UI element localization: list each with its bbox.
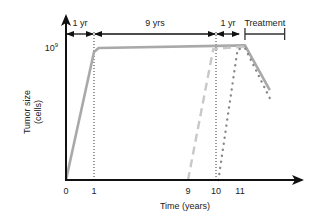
x-tick-label: 11 [235, 186, 244, 196]
period-label-1: 9 yrs [145, 18, 165, 28]
x-tick-label: 1 [91, 186, 96, 196]
x-axis-title: Time (years) [160, 201, 210, 211]
tumor-growth-chart: 0191011 109 Tumor size (cells) Time (yea… [0, 0, 319, 217]
y-axis-subtitle: (cells) [33, 100, 43, 124]
reference-lines [94, 30, 216, 180]
x-tick-label: 9 [185, 186, 190, 196]
period-label-0: 1 yr [72, 18, 87, 28]
x-tick-labels: 0191011 [63, 186, 244, 196]
y-tick-exponent: 9 [55, 42, 59, 48]
period-label-2: 1 yr [220, 18, 235, 28]
y-axis-title: Tumor size [22, 90, 32, 134]
series-solid [66, 45, 270, 180]
period-annotations: 1 yr9 yrs1 yrTreatment [67, 18, 286, 40]
y-tick-base: 10 [45, 43, 55, 53]
series-layer [66, 45, 270, 180]
series-dotted [218, 48, 269, 180]
y-tick-label: 109 [45, 42, 59, 53]
x-tick-label: 0 [63, 186, 68, 196]
period-label-3: Treatment [244, 18, 285, 28]
x-tick-label: 10 [211, 186, 221, 196]
y-axis-label: Tumor size (cells) [22, 90, 43, 134]
